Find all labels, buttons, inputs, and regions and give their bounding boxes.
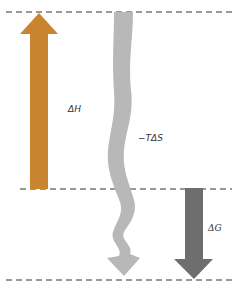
diagram-canvas — [0, 0, 242, 291]
delta-g-arrow — [174, 188, 213, 279]
minus-t-delta-s-label: −TΔS — [138, 133, 163, 143]
delta-g-label: ΔG — [208, 223, 222, 233]
delta-h-arrow — [20, 13, 58, 189]
delta-h-label: ΔH — [68, 104, 81, 114]
gibbs-energy-diagram: ΔH −TΔS ΔG — [0, 0, 242, 291]
minus-t-delta-s-arrow — [107, 12, 140, 276]
